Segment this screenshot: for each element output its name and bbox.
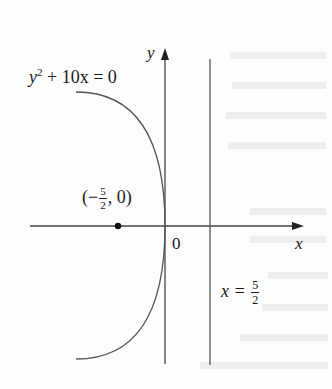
focus-point	[115, 223, 121, 229]
x-axis-label: x	[295, 235, 303, 252]
y-axis-label: y	[147, 44, 155, 61]
y-axis-arrow-icon	[161, 48, 169, 60]
focus-label: (−52, 0)	[82, 186, 132, 211]
directrix-fraction: 52	[251, 279, 259, 306]
directrix-label: x = 52	[221, 279, 260, 306]
origin-label: 0	[172, 235, 181, 252]
parabola-diagram	[0, 0, 332, 389]
equation-label: y2 + 10x = 0	[29, 67, 117, 86]
focus-fraction: 52	[99, 186, 107, 211]
x-axis-arrow-icon	[292, 222, 304, 230]
